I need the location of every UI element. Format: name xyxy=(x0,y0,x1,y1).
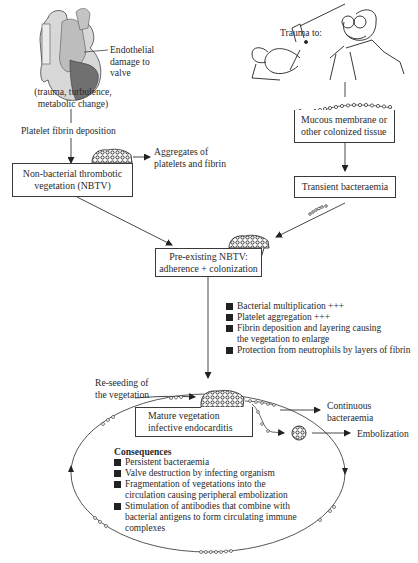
consequence-item: Persistent bacteraemia xyxy=(114,457,297,468)
process-item: Platelet aggregation +++ xyxy=(226,312,410,323)
aggregates-label: Aggregates of platelets and fibrin xyxy=(154,146,226,169)
growth-processes-list: Bacterial multiplication +++ Platelet ag… xyxy=(226,301,410,356)
process-item: Fibrin deposition and layering causing t… xyxy=(226,323,410,345)
consequences-title: Consequences xyxy=(114,446,172,458)
mature-vegetation-box: Mature vegetation infective endocarditis xyxy=(135,407,253,437)
process-item: Bacterial multiplication +++ xyxy=(226,301,410,312)
nbtv-box: Non-bacterial thrombotic vegetation (NBT… xyxy=(12,163,133,197)
transient-bacteraemia-box: Transient bacteraemia xyxy=(294,176,396,198)
consequence-item: Valve destruction by infecting organism xyxy=(114,468,297,479)
platelet-fibrin-label: Platelet fibrin deposition xyxy=(21,125,116,137)
dentist-cartoon xyxy=(252,4,404,80)
trauma-label: Trauma to: xyxy=(280,27,322,39)
mucous-membrane-box: Mucous membrane or other colonized tissu… xyxy=(294,110,395,143)
embolization-label: Embolization xyxy=(357,428,409,440)
process-item: Protection from neutrophils by layers of… xyxy=(226,345,410,356)
embolus-icon xyxy=(292,426,306,440)
preexisting-nbtv-box: Pre-existing NBTV: adherence + colonizat… xyxy=(155,248,262,277)
consequence-item: Stimulation of antibodies that combine w… xyxy=(114,501,297,534)
reseeding-label: Re-seeding of the vegetation xyxy=(95,377,149,400)
consequence-item: Fragmentation of vegetations into the ci… xyxy=(114,479,297,501)
causes-label: (trauma, turbulence, metabolic change) xyxy=(20,86,126,109)
bacteria-chain-icon xyxy=(309,205,328,216)
consequences-list: Persistent bacteraemia Valve destruction… xyxy=(114,457,297,534)
mature-box-top-edge xyxy=(135,407,201,408)
endothelial-damage-label: Endothelial damage to valve xyxy=(110,44,154,79)
continuous-bacteraemia-label: Continuous bacteraemia xyxy=(327,400,373,423)
